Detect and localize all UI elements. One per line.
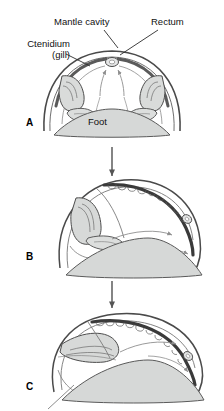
panel-label-c: C <box>26 381 33 392</box>
label-ctenidium-line1: Ctenidium <box>27 38 70 49</box>
label-ctenidium-line2: (gill) <box>8 50 70 61</box>
label-ctenidium: Ctenidium (gill) <box>8 39 70 60</box>
torsion-diagram <box>0 0 224 411</box>
label-foot: Foot <box>88 117 107 128</box>
panel-label-a: A <box>26 117 33 128</box>
label-mantle-cavity: Mantle cavity <box>54 17 109 28</box>
label-rectum: Rectum <box>151 17 184 28</box>
panel-a-rectum <box>106 58 119 67</box>
panel-label-b: B <box>26 251 33 262</box>
